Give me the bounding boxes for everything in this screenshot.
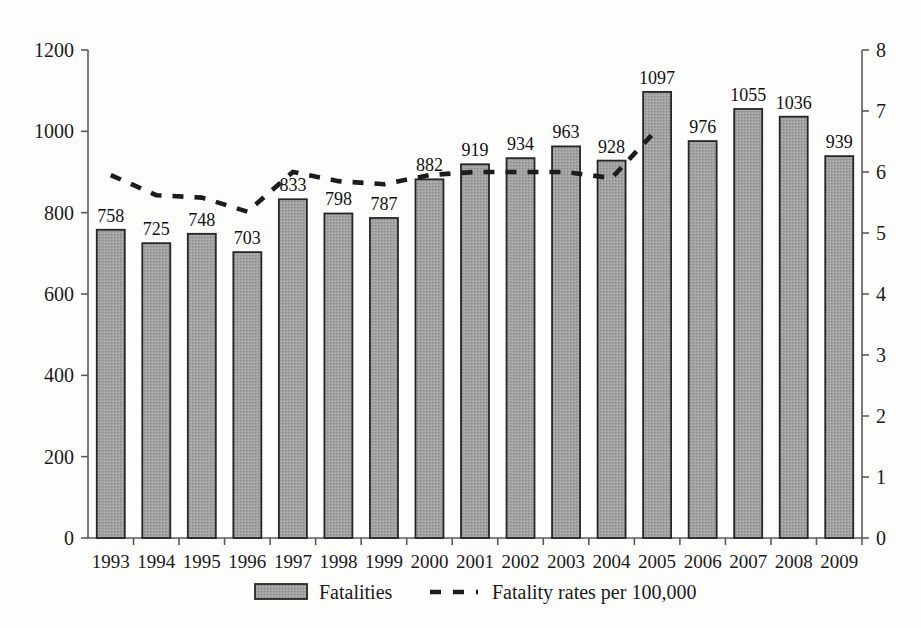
bar-value-label: 787	[370, 194, 397, 214]
y-axis-right-tick-label: 8	[876, 39, 886, 61]
bar-value-label: 833	[279, 175, 306, 195]
bar	[598, 161, 626, 538]
x-axis-category-label: 2008	[775, 551, 813, 572]
bar-value-label: 928	[598, 137, 625, 157]
x-axis-category-label: 1994	[137, 551, 176, 572]
x-axis-category-label: 2009	[820, 551, 858, 572]
bar	[689, 141, 717, 538]
bar-value-label: 1055	[730, 85, 766, 105]
legend-swatch-fatalities	[255, 584, 307, 599]
bar-value-label: 963	[553, 122, 580, 142]
bar-value-label: 976	[689, 117, 716, 137]
y-axis-right: 012345678	[862, 39, 886, 549]
bar	[233, 252, 261, 538]
x-axis-category-label: 2005	[638, 551, 676, 572]
x-axis-category-label: 2003	[547, 551, 585, 572]
y-axis-left-tick-label: 0	[64, 527, 74, 549]
y-axis-right-tick-label: 2	[876, 405, 886, 427]
bar	[643, 92, 671, 538]
bar	[97, 230, 125, 538]
x-axis-category-label: 2002	[502, 551, 540, 572]
y-axis-left: 020040060080010001200	[34, 39, 88, 549]
y-axis-right-tick-label: 4	[876, 283, 886, 305]
bar	[825, 156, 853, 538]
legend-label-fatalities: Fatalities	[319, 581, 393, 603]
bar	[188, 234, 216, 538]
y-axis-right-tick-label: 0	[876, 527, 886, 549]
x-axis-category-label: 2006	[684, 551, 722, 572]
x-axis-category-label: 1996	[228, 551, 266, 572]
bar-value-label: 1036	[776, 93, 812, 113]
y-axis-left-tick-label: 1200	[34, 39, 74, 61]
chart-page: 020040060080010001200 012345678 19931994…	[0, 0, 921, 628]
x-axis-category-label: 1998	[319, 551, 357, 572]
x-axis: 1993199419951996199719981999200020012002…	[88, 538, 862, 572]
y-axis-right-tick-label: 3	[876, 344, 886, 366]
bar-value-label: 882	[416, 155, 443, 175]
x-axis-category-label: 2004	[593, 551, 632, 572]
bar-value-label: 939	[826, 132, 853, 152]
y-axis-right-tick-label: 7	[876, 100, 886, 122]
x-axis-category-label: 2000	[410, 551, 448, 572]
x-axis-category-label: 2007	[729, 551, 767, 572]
y-axis-left-tick-label: 1000	[34, 120, 74, 142]
bar-value-label: 725	[143, 219, 170, 239]
bar	[415, 179, 443, 538]
bar	[279, 199, 307, 538]
bar-value-label: 758	[97, 206, 124, 226]
bar	[552, 146, 580, 538]
bar-value-label: 1097	[639, 68, 675, 88]
bar	[142, 243, 170, 538]
fatalities-chart: 020040060080010001200 012345678 19931994…	[0, 0, 921, 628]
bar-value-label: 798	[325, 189, 352, 209]
y-axis-right-tick-label: 1	[876, 466, 886, 488]
bar	[461, 164, 489, 538]
y-axis-right-tick-label: 5	[876, 222, 886, 244]
x-axis-category-label: 1993	[92, 551, 130, 572]
bar-value-label: 934	[507, 134, 534, 154]
bar	[507, 158, 535, 538]
bar-value-label: 748	[188, 210, 215, 230]
chart-legend: FatalitiesFatality rates per 100,000	[255, 581, 696, 604]
y-axis-left-tick-label: 400	[44, 364, 74, 386]
bar-value-label: 703	[234, 228, 261, 248]
bar	[780, 117, 808, 538]
bar	[370, 218, 398, 538]
y-axis-left-tick-label: 800	[44, 202, 74, 224]
x-axis-category-label: 1995	[183, 551, 221, 572]
y-axis-left-tick-label: 200	[44, 446, 74, 468]
bar	[324, 213, 352, 538]
x-axis-category-label: 2001	[456, 551, 494, 572]
x-axis-category-label: 1999	[365, 551, 403, 572]
bar	[734, 109, 762, 538]
x-axis-category-label: 1997	[274, 551, 312, 572]
bar-value-label: 919	[462, 140, 489, 160]
y-axis-left-tick-label: 600	[44, 283, 74, 305]
y-axis-right-tick-label: 6	[876, 161, 886, 183]
legend-label-fatality-rates: Fatality rates per 100,000	[492, 581, 696, 604]
